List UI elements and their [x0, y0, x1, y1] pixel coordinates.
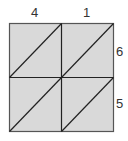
lattice-grid: [0, 0, 128, 141]
